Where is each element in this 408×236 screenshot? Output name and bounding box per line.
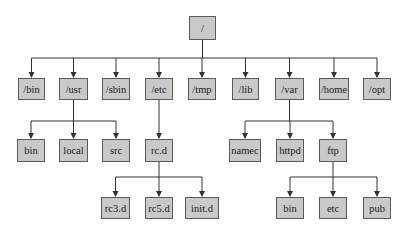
node-initd: init.d — [185, 197, 219, 219]
node-namec: namec — [229, 139, 261, 162]
node-opt: /opt — [363, 78, 391, 100]
node-rcd: rc.d — [145, 139, 173, 162]
node-usr-local: local — [59, 139, 88, 162]
node-root: / — [189, 16, 216, 40]
node-rc5d: rc5.d — [145, 197, 173, 219]
node-ftp: ftp — [319, 139, 347, 162]
node-httpd: httpd — [276, 139, 304, 162]
node-etc: /etc — [145, 78, 173, 100]
node-ftp-etc: etc — [319, 197, 347, 219]
node-sbin: /sbin — [102, 78, 130, 100]
node-ftp-bin: bin — [276, 197, 304, 219]
node-usr-src: src — [102, 139, 130, 162]
node-usr-bin: bin — [17, 139, 45, 162]
node-bin: /bin — [18, 78, 45, 100]
node-rc3d: rc3.d — [101, 197, 130, 219]
directory-tree-diagram: //bin/usr/sbin/etc/tmp/lib/var/home/optb… — [0, 0, 408, 236]
node-usr: /usr — [59, 78, 88, 100]
node-lib: /lib — [232, 78, 259, 100]
node-home: /home — [319, 78, 349, 100]
node-var: /var — [275, 78, 304, 100]
node-tmp: /tmp — [188, 78, 216, 100]
node-ftp-pub: pub — [363, 197, 391, 219]
